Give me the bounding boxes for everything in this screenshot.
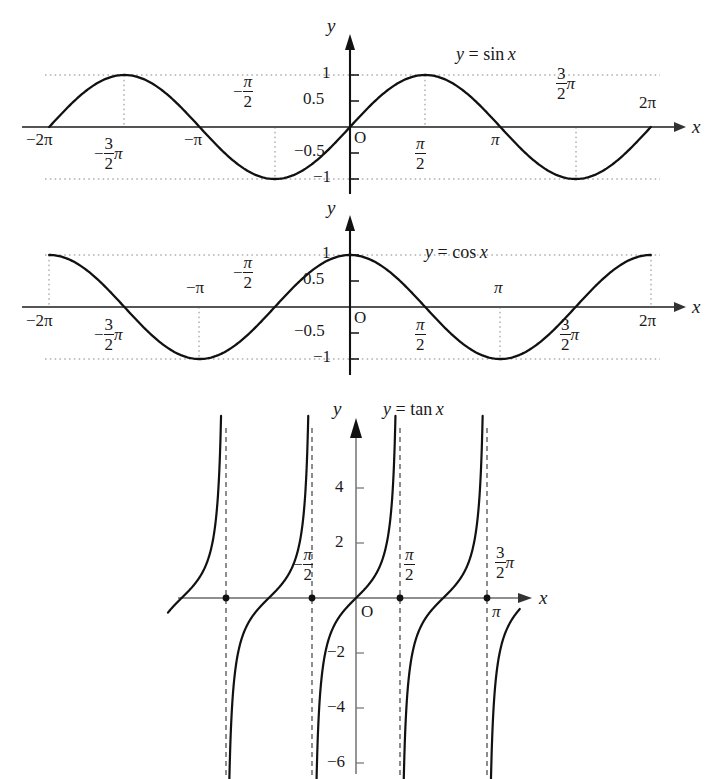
y-axis-arrowhead [350, 418, 362, 438]
cosine-xtick-label-3pi-over-2: 32π [560, 317, 579, 355]
tangent-equation-label: y = tan x [383, 400, 444, 418]
sine-x-axis-label: x [692, 117, 700, 136]
tangent-figure: y = tan x y x O 4 2 −2 −4 −6 −π2 π2 π 32… [0, 390, 722, 779]
tangent-ytick-label-2: 2 [335, 533, 344, 550]
cosine-xtick-label-minus-3pi-over-2: −32π [94, 317, 123, 355]
tangent-origin-label: O [361, 603, 373, 620]
cosine-xtick-label-minus-pi-over-2: −π2 [233, 255, 253, 293]
tangent-ytick-label-minus2: −2 [327, 643, 345, 660]
y-axis-arrowhead [345, 34, 355, 50]
axis-dot-pi-over-2 [397, 595, 404, 602]
sine-origin-label: O [354, 129, 366, 146]
tangent-plot [0, 390, 722, 779]
tangent-ytick-label-minus4: −4 [327, 698, 345, 715]
cosine-xtick-label-minus-pi: −π [186, 279, 204, 296]
sine-xtick-label-minus-pi-over-2: −π2 [233, 74, 253, 112]
tangent-xtick-label-pi: π [492, 603, 501, 620]
sine-equation-label: y = sin x [456, 45, 516, 63]
cosine-xtick-label-pi-over-2: π2 [415, 317, 426, 355]
tangent-xtick-label-pi-over-2: π2 [404, 547, 415, 585]
sine-xtick-label-3pi-over-2: 32π [556, 66, 575, 104]
cosine-ytick-label-1: 1 [322, 244, 331, 261]
y-axis-arrowhead [345, 215, 355, 231]
sine-xtick-label-pi: π [491, 131, 500, 148]
sine-xtick-label-2pi: 2π [639, 94, 656, 111]
sine-ytick-label-minus1: −1 [313, 168, 331, 185]
x-axis-arrowhead [518, 593, 532, 603]
cosine-x-axis-label: x [692, 297, 700, 316]
cosine-origin-label: O [354, 309, 366, 326]
tangent-y-axis-label: y [333, 399, 341, 418]
tangent-xtick-label-3pi-over-2: 32π [495, 545, 514, 583]
tangent-ytick-label-minus6: −6 [327, 753, 345, 770]
axis-dot-minus-3pi-over-2 [223, 595, 230, 602]
cosine-y-axis-label: y [327, 198, 335, 217]
cosine-ytick-label-minus1: −1 [313, 348, 331, 365]
cosine-xtick-label-minus-2pi: −2π [26, 312, 53, 329]
cosine-equation-label: y = cos x [425, 243, 488, 261]
axis-dot-3pi-over-2 [484, 595, 491, 602]
x-axis-arrowhead [674, 302, 686, 312]
sine-xtick-label-minus-pi: −π [184, 131, 202, 148]
sine-ytick-label-1: 1 [322, 64, 331, 81]
cosine-ytick-label-0p5: 0.5 [303, 270, 324, 287]
cosine-ytick-label-minus0p5: −0.5 [294, 322, 325, 339]
tangent-ytick-label-4: 4 [335, 478, 344, 495]
tangent-xtick-label-minus-pi-over-2: −π2 [293, 547, 313, 585]
sine-ytick-label-minus0p5: −0.5 [294, 142, 325, 159]
sine-ytick-label-0p5: 0.5 [303, 90, 324, 107]
sine-y-axis-label: y [327, 16, 335, 35]
tangent-branch-0 [168, 416, 221, 613]
x-axis-arrowhead [674, 122, 686, 132]
cosine-plot [0, 205, 722, 390]
cosine-xtick-label-2pi: 2π [639, 312, 656, 329]
sine-xtick-label-minus-2pi: −2π [26, 131, 53, 148]
sine-xtick-label-minus-3pi-over-2: −32π [94, 136, 123, 174]
cosine-xtick-label-pi: π [494, 279, 503, 296]
sine-xtick-label-pi-over-2: π2 [415, 136, 426, 174]
sine-figure: y = sin x y x O 1 0.5 −0.5 −1 −2π −32π −… [0, 0, 722, 205]
axis-dot-minus-pi-over-2 [309, 595, 316, 602]
tangent-branch-4 [491, 609, 520, 779]
cosine-figure: y = cos x y x O 1 0.5 −0.5 −1 −2π −32π −… [0, 205, 722, 390]
tangent-x-axis-label: x [539, 588, 547, 607]
